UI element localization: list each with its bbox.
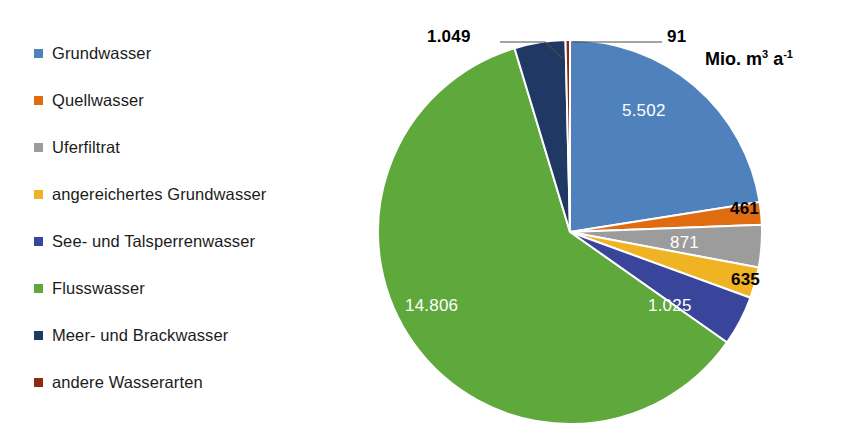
legend-label-angereichertes-grundwasser: angereichertes Grundwasser (52, 185, 266, 203)
legend-label-quellwasser: Quellwasser (52, 91, 144, 109)
unit-label: Mio. m3 a-1 (705, 49, 793, 70)
legend-item-grundwasser[interactable]: Grundwasser (34, 30, 324, 77)
pie-chart: 5.502 461 871 635 1.025 14.806 1.049 91 … (330, 0, 850, 444)
value-label-see-und-talsperrenwasser: 1.025 (648, 296, 692, 316)
legend-label-andere-wasserarten: andere Wasserarten (52, 373, 203, 391)
legend-swatch-andere-wasserarten (34, 378, 43, 387)
legend-item-andere-wasserarten[interactable]: andere Wasserarten (34, 359, 324, 406)
unit-exponent-inverse-year: -1 (783, 48, 793, 60)
legend-swatch-grundwasser (34, 49, 43, 58)
unit-mid: a (768, 49, 783, 69)
legend-label-flusswasser: Flusswasser (52, 279, 145, 297)
legend-swatch-angereichertes-grundwasser (34, 190, 43, 199)
value-label-andere-wasserarten: 91 (667, 27, 686, 47)
pie-slices (378, 40, 762, 424)
legend-label-grundwasser: Grundwasser (52, 44, 151, 62)
legend-item-quellwasser[interactable]: Quellwasser (34, 77, 324, 124)
value-label-uferfiltrat: 871 (670, 233, 699, 253)
value-label-meer-und-brackwasser: 1.049 (427, 27, 471, 47)
legend-label-uferfiltrat: Uferfiltrat (52, 138, 120, 156)
legend-item-flusswasser[interactable]: Flusswasser (34, 265, 324, 312)
legend-item-angereichertes-grundwasser[interactable]: angereichertes Grundwasser (34, 171, 324, 218)
legend-label-meer-und-brackwasser: Meer- und Brackwasser (52, 326, 228, 344)
unit-prefix: Mio. m (705, 49, 762, 69)
legend-swatch-see-und-talsperrenwasser (34, 237, 43, 246)
value-label-flusswasser: 14.806 (405, 296, 458, 316)
legend-item-uferfiltrat[interactable]: Uferfiltrat (34, 124, 324, 171)
legend-swatch-flusswasser (34, 284, 43, 293)
legend-label-see-und-talsperrenwasser: See- und Talsperrenwasser (52, 232, 255, 250)
chart-legend: Grundwasser Quellwasser Uferfiltrat ange… (34, 30, 324, 406)
legend-swatch-quellwasser (34, 96, 43, 105)
value-label-grundwasser: 5.502 (622, 101, 666, 121)
legend-item-see-und-talsperrenwasser[interactable]: See- und Talsperrenwasser (34, 218, 324, 265)
value-label-angereichertes-grundwasser: 635 (731, 270, 760, 290)
legend-swatch-meer-und-brackwasser (34, 331, 43, 340)
legend-swatch-uferfiltrat (34, 143, 43, 152)
value-label-quellwasser: 461 (730, 199, 759, 219)
legend-item-meer-und-brackwasser[interactable]: Meer- und Brackwasser (34, 312, 324, 359)
